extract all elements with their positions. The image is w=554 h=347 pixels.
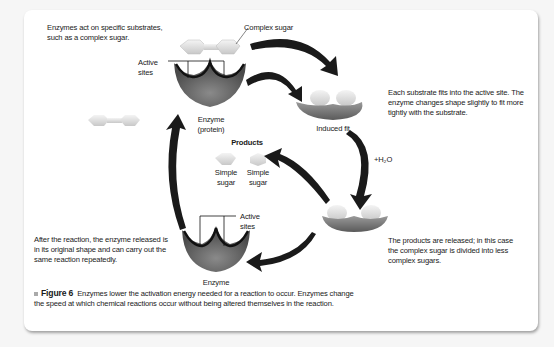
enzyme-label: Enzyme (196, 278, 236, 288)
figure-number: Figure 6 (41, 288, 73, 298)
complex-sugar-label: Complex sugar (244, 23, 308, 33)
simple-sugar-label-2: Simple sugar (244, 168, 272, 188)
enzyme-protein-label: Enzyme (protein) (192, 115, 230, 135)
simple-sugar-icon-1 (215, 153, 236, 165)
free-complex-sugar-icon (88, 115, 140, 126)
figure-caption: Figure 6 Enzymes lower the activation en… (34, 288, 364, 309)
water-label: +H₂O (374, 155, 404, 165)
induced-fit-label: Induced fit (306, 124, 360, 134)
figure-caption-text: Enzymes lower the activation energy need… (34, 289, 354, 308)
active-sites-bottom-label: Active sites (240, 212, 270, 232)
products-note: The products are released; in this case … (388, 236, 523, 266)
bullet-square-icon (34, 292, 38, 296)
products-label: Products (222, 138, 272, 148)
active-sites-top-label: Active sites (138, 58, 168, 78)
cycle-arrows (166, 39, 372, 272)
complex-sugar-icon (180, 40, 240, 54)
induced-fit-note: Each substrate fits into the active site… (388, 88, 533, 118)
reaction-complex-icon (322, 205, 388, 232)
simple-sugar-label-1: Simple sugar (212, 168, 240, 188)
reuse-note: After the reaction, the enzyme released … (34, 235, 169, 265)
enzyme-icon-top (174, 60, 246, 107)
enzyme-icon-bottom (182, 226, 250, 272)
simple-sugar-icon-2 (250, 153, 266, 166)
induced-fit-icon (296, 90, 362, 120)
substrates-note: Enzymes act on specific substrates, such… (47, 23, 172, 43)
